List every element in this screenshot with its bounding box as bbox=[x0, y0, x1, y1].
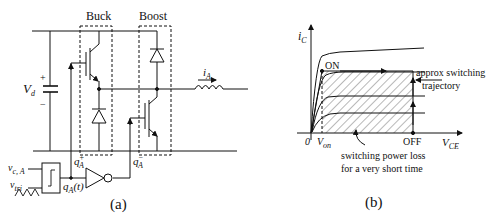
x-axis-label: VCE bbox=[442, 137, 459, 151]
plus-sign: + bbox=[40, 73, 46, 83]
buck-diode-icon bbox=[92, 89, 106, 151]
buck-igbt-icon bbox=[86, 31, 101, 91]
switching-function-label: qA(t) bbox=[63, 181, 84, 195]
boost-box bbox=[139, 26, 171, 155]
minus-sign: − bbox=[40, 100, 46, 110]
boost-diode-icon bbox=[150, 31, 164, 91]
caption-b: (b) bbox=[365, 195, 383, 210]
y-axis-label: iC bbox=[298, 30, 307, 45]
buck-box bbox=[80, 26, 112, 155]
inductor-current-label: iA bbox=[203, 67, 211, 81]
off-point-label: OFF bbox=[403, 137, 421, 147]
control-voltage-label: vc, A bbox=[8, 163, 25, 176]
buck-boost-circuit bbox=[15, 26, 248, 196]
loss-label-line1: switching power loss bbox=[341, 151, 425, 161]
inverter-icon bbox=[86, 168, 104, 188]
buck-label: Buck bbox=[86, 10, 111, 22]
boost-igbt-icon bbox=[145, 89, 157, 151]
trajectory-label-line1: approx switching bbox=[416, 68, 485, 78]
loss-label-line2: for a very short time bbox=[341, 164, 423, 174]
von-label: Von bbox=[317, 137, 331, 150]
on-point-label: ON bbox=[325, 61, 339, 71]
inverter-bubble bbox=[104, 174, 112, 182]
gate-signal-plus-label: q+A bbox=[74, 154, 84, 170]
source-voltage-label: Vd bbox=[23, 82, 35, 98]
triangle-voltage-label: vtri bbox=[10, 180, 22, 193]
trajectory-label-line2: trajectory bbox=[422, 81, 460, 91]
inductor-icon bbox=[195, 86, 248, 90]
switching-loss-area bbox=[322, 71, 413, 133]
gate-signal-minus-label: q−A bbox=[133, 154, 143, 170]
dc-source-capacitor-icon bbox=[43, 31, 58, 151]
caption-a: (a) bbox=[110, 197, 127, 212]
origin-label: 0 bbox=[305, 137, 310, 147]
boost-label: Boost bbox=[139, 10, 167, 22]
